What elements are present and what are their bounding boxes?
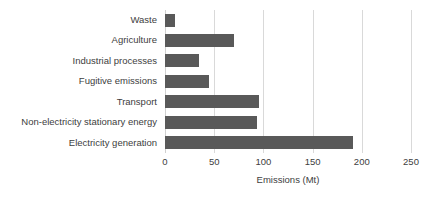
x-tick-250: 250 xyxy=(403,155,419,169)
bar-row xyxy=(165,112,411,132)
bar-row xyxy=(165,133,411,153)
x-tick-100: 100 xyxy=(255,155,271,169)
x-tick-150: 150 xyxy=(305,155,321,169)
category-label-waste: Waste xyxy=(0,10,161,30)
x-axis-title: Emissions (Mt) xyxy=(165,174,411,185)
bar-industrial-processes[interactable] xyxy=(165,54,199,67)
plot-area xyxy=(165,10,411,153)
x-tick-50: 50 xyxy=(209,155,220,169)
bar-waste[interactable] xyxy=(165,14,175,27)
category-label-industrial-processes: Industrial processes xyxy=(0,51,161,71)
bar-chart: Waste Agriculture Industrial processes F… xyxy=(0,0,432,200)
category-axis-labels: Waste Agriculture Industrial processes F… xyxy=(0,10,161,153)
category-label-electricity-generation: Electricity generation xyxy=(0,133,161,153)
x-tick-0: 0 xyxy=(162,155,167,169)
category-label-agriculture: Agriculture xyxy=(0,30,161,50)
bar-agriculture[interactable] xyxy=(165,34,234,47)
bar-row xyxy=(165,92,411,112)
x-tick-200: 200 xyxy=(354,155,370,169)
gridline-250 xyxy=(411,10,412,153)
bars-layer xyxy=(165,10,411,153)
category-label-non-electricity-stationary-energy: Non-electricity stationary energy xyxy=(0,112,161,132)
bar-transport[interactable] xyxy=(165,95,259,108)
bar-row xyxy=(165,51,411,71)
bar-fugitive-emissions[interactable] xyxy=(165,75,209,88)
bar-non-electricity-stationary-energy[interactable] xyxy=(165,116,257,129)
bar-row xyxy=(165,30,411,50)
bar-row xyxy=(165,10,411,30)
value-axis-ticks: 0 50 100 150 200 250 xyxy=(165,155,411,169)
bar-electricity-generation[interactable] xyxy=(165,136,353,149)
category-label-fugitive-emissions: Fugitive emissions xyxy=(0,71,161,91)
category-label-transport: Transport xyxy=(0,92,161,112)
bar-row xyxy=(165,71,411,91)
